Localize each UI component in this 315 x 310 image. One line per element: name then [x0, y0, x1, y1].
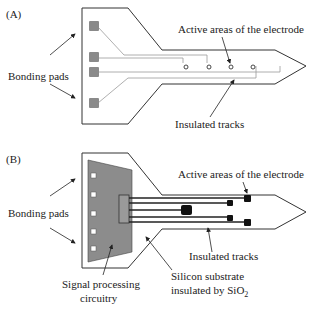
panel-b-label: (B) [6, 153, 21, 166]
active-areas-label-a: Active areas of the electrode [178, 23, 304, 35]
panel-a: (A) Bonding pads Active areas of [6, 8, 306, 130]
insulated-tracks-label-a: Insulated tracks [175, 118, 244, 130]
interface-block [119, 195, 129, 223]
bonding-pads-label-a: Bonding pads [8, 70, 69, 82]
active-areas-label-b: Active areas of the electrode [178, 168, 304, 180]
bonding-pads-label-b: Bonding pads [8, 207, 69, 219]
arrow-icon [50, 34, 75, 55]
signal-processing-label-line1: Signal processing [62, 278, 140, 290]
arrow-icon [50, 84, 75, 98]
substrate-label-line2: insulated by SiO2 [171, 284, 248, 299]
arrow-icon [50, 228, 75, 243]
arrow-icon [50, 179, 75, 196]
arrow-icon [146, 237, 172, 270]
panel-b: (B) [6, 153, 306, 304]
electrode-diagram: (A) Bonding pads Active areas of [0, 0, 315, 310]
signal-processing-label-line2: circuitry [80, 292, 118, 304]
arrow-icon [208, 228, 212, 252]
substrate-label-line1: Silicon substrate [171, 270, 244, 282]
panel-a-label: (A) [6, 8, 22, 21]
arrow-icon [243, 182, 247, 193]
insulated-tracks-label-b: Insulated tracks [189, 250, 258, 262]
arrow-icon [210, 80, 234, 117]
